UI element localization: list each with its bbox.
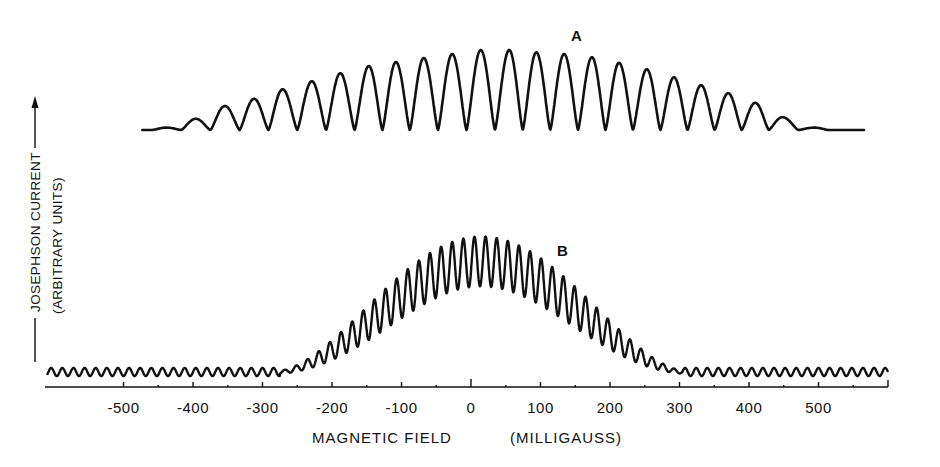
x-tick-label: 200: [597, 399, 624, 416]
x-tick-label: 100: [527, 399, 554, 416]
x-tick-label: -400: [177, 399, 209, 416]
x-axis: [45, 379, 888, 387]
arrow-up-icon: [32, 96, 39, 108]
y-axis-label: JOSEPHSON CURRENT (ARBITRARY UNITS): [28, 96, 65, 362]
x-tick-label: 300: [666, 399, 693, 416]
x-axis-title: MAGNETIC FIELD: [312, 429, 452, 446]
curve-b-label: B: [557, 242, 568, 259]
x-tick-label: 400: [736, 399, 763, 416]
curve-a-label: A: [571, 27, 582, 44]
plot-canvas: A B JOSEPHSON CURRENT (ARBITRARY UNITS) …: [0, 0, 940, 467]
curve-b: [47, 237, 888, 377]
x-tick-label: -200: [316, 399, 348, 416]
curve-a: [142, 50, 864, 130]
x-tick-label: -500: [107, 399, 139, 416]
x-axis-units: (MILLIGAUSS): [510, 429, 622, 446]
josephson-interference-figure: A B JOSEPHSON CURRENT (ARBITRARY UNITS) …: [0, 0, 940, 467]
x-tick-label: -300: [246, 399, 278, 416]
x-tick-label: -100: [385, 399, 417, 416]
y-axis-units: (ARBITRARY UNITS): [50, 177, 65, 314]
x-tick-label: 0: [467, 399, 476, 416]
x-tick-label: 500: [805, 399, 832, 416]
y-axis-title: JOSEPHSON CURRENT: [28, 152, 43, 312]
